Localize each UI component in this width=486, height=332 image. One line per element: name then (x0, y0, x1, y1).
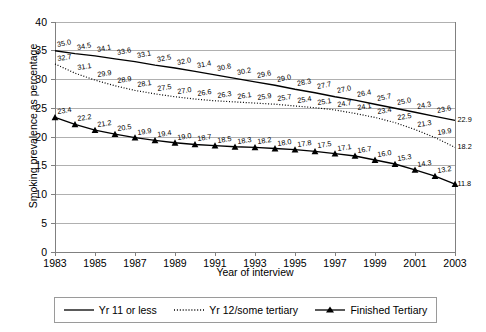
dotted-line-swatch (174, 305, 204, 315)
data-label: 22.9 (458, 116, 472, 124)
x-axis-title: Year of interview (55, 266, 455, 278)
y-axis-ticks (51, 22, 55, 252)
legend-label: Yr 12/some tertiary (209, 304, 298, 316)
data-label: 11.8 (458, 180, 472, 188)
y-tick-label: 25 (13, 103, 47, 113)
solid-line-swatch (64, 305, 94, 315)
data-label: 21.3 (416, 118, 431, 128)
data-label: 18.2 (458, 143, 472, 151)
data-label: 18.5 (217, 135, 232, 145)
series-line-0 (55, 51, 455, 121)
legend-label: Yr 11 or less (99, 304, 157, 316)
data-label: 19.9 (137, 126, 152, 136)
data-label: 18.0 (277, 137, 292, 147)
y-tick-label: 0 (13, 247, 47, 257)
smoking-prevalence-line-chart: Smoking prevalence as percentage 0510152… (0, 0, 486, 332)
y-tick-label: 30 (13, 74, 47, 84)
data-markers (52, 114, 459, 187)
data-label: 19.9 (436, 126, 451, 136)
triangle-line-swatch (315, 305, 345, 315)
y-tick-label: 15 (13, 160, 47, 170)
data-label: 27.0 (176, 86, 191, 96)
plot-canvas (0, 0, 486, 332)
legend-item-yr11-or-less: Yr 11 or less (64, 304, 157, 316)
y-tick-label: 40 (13, 17, 47, 27)
x-axis-ticks (55, 252, 455, 256)
legend-item-finished-tertiary: Finished Tertiary (315, 304, 427, 316)
data-label: 17.1 (337, 143, 352, 153)
y-tick-label: 20 (13, 132, 47, 142)
legend-label: Finished Tertiary (350, 304, 427, 316)
data-label: 22.5 (396, 112, 411, 122)
chart-legend: Yr 11 or less Yr 12/some tertiary Finish… (54, 297, 437, 323)
series-line-2 (55, 117, 455, 184)
y-tick-label: 35 (13, 45, 47, 55)
legend-item-yr12-some-tertiary: Yr 12/some tertiary (174, 304, 298, 316)
data-label: 25.1 (316, 97, 331, 107)
data-label: 17.8 (297, 139, 312, 149)
y-tick-label: 10 (13, 189, 47, 199)
y-tick-label: 5 (13, 218, 47, 228)
